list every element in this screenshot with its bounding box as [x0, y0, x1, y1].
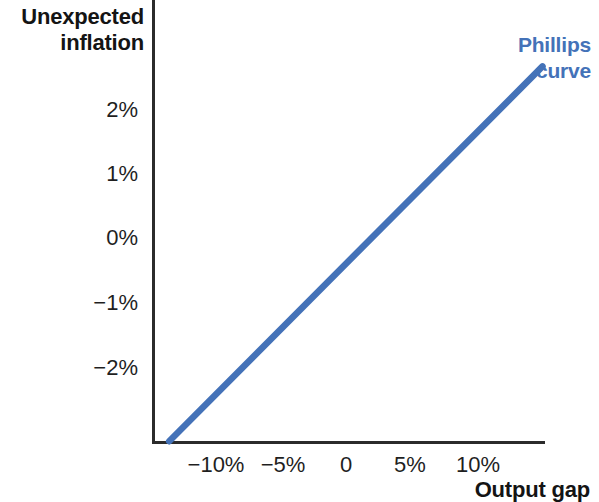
phillips-curve-chart: Unexpected inflation 2% 1% 0% −1% −2% −1… — [0, 0, 599, 502]
y-axis-line — [152, 0, 155, 444]
y-axis-title-line-1: Unexpected — [0, 4, 144, 30]
series-label-line-2: curve — [421, 58, 591, 84]
x-axis-title: Output gap — [380, 477, 590, 502]
y-tick-label: −1% — [18, 290, 138, 316]
y-tick-label: −2% — [18, 355, 138, 381]
y-tick-label: 0% — [18, 225, 138, 251]
x-tick-label: 10% — [433, 452, 523, 478]
series-label-line-1: Phillips — [421, 32, 591, 58]
y-tick-label: 1% — [18, 161, 138, 187]
y-axis-title-line-2: inflation — [0, 30, 144, 56]
phillips-curve-line — [169, 66, 542, 441]
y-axis-title: Unexpected inflation — [0, 4, 144, 55]
x-axis-line — [152, 441, 545, 444]
series-label-phillips-curve: Phillips curve — [421, 32, 591, 83]
y-tick-label: 2% — [18, 97, 138, 123]
